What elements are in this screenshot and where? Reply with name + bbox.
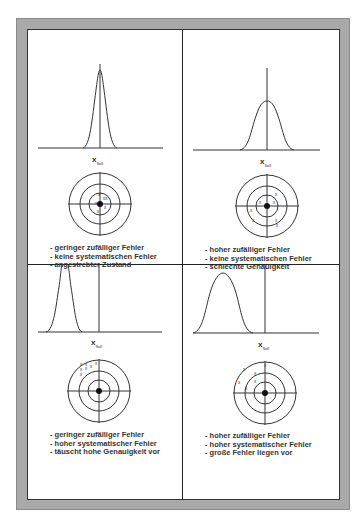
- gauss-curve: [46, 265, 82, 332]
- svg-text:x: x: [254, 379, 257, 384]
- x-soll-label: xSoll: [91, 338, 102, 349]
- svg-text:x: x: [85, 366, 88, 371]
- distribution-and-target: xxxxxxx: [28, 265, 183, 500]
- diagram-frame: xxxxxx xSoll geringer zufälliger Fehler …: [16, 18, 350, 510]
- x-soll-label: xSoll: [258, 340, 269, 351]
- x-soll-label: xSoll: [260, 157, 271, 168]
- target-icon: xxxxxx: [68, 172, 132, 236]
- gauss-curve: [193, 273, 253, 333]
- target-icon: xxxxxx: [233, 361, 297, 425]
- svg-text:x: x: [104, 205, 107, 210]
- svg-text:x: x: [245, 386, 248, 391]
- description-list: hoher zufälliger Fehler hoher systematis…: [205, 432, 312, 458]
- panel-low-random-high-systematic: xxxxxxx xSoll geringer zufälliger Fehler…: [28, 265, 183, 500]
- svg-text:x: x: [80, 372, 83, 377]
- svg-text:x: x: [90, 364, 93, 369]
- svg-text:xx: xx: [103, 196, 108, 201]
- distribution-and-target: xxxxxx: [28, 30, 183, 265]
- panel-high-random-no-systematic: xxxxxxx xSoll hoher zufälliger Fehler ke…: [183, 30, 339, 265]
- description-list: geringer zufälliger Fehler hoher systema…: [50, 431, 160, 457]
- diagram-grid: xxxxxx xSoll geringer zufälliger Fehler …: [27, 29, 340, 500]
- target-icon: xxxxxxx: [67, 359, 131, 423]
- svg-text:x: x: [275, 192, 278, 197]
- panel-high-random-high-systematic: xxxxxx xSoll hoher zufälliger Fehler hoh…: [183, 265, 339, 500]
- target-icon: xxxxxxx: [235, 174, 299, 238]
- svg-text:x: x: [95, 361, 98, 366]
- svg-text:x: x: [250, 208, 253, 213]
- panel-low-random-no-systematic: xxxxxx xSoll geringer zufälliger Fehler …: [28, 30, 183, 265]
- svg-text:x: x: [276, 223, 279, 228]
- distribution-and-target: xxxxxx: [183, 265, 339, 500]
- distribution-and-target: xxxxxxx: [183, 30, 339, 265]
- svg-text:x: x: [238, 380, 241, 385]
- x-soll-label: xSoll: [92, 155, 103, 166]
- svg-text:x: x: [264, 363, 267, 368]
- svg-text:x: x: [259, 200, 262, 205]
- svg-text:x: x: [273, 200, 276, 205]
